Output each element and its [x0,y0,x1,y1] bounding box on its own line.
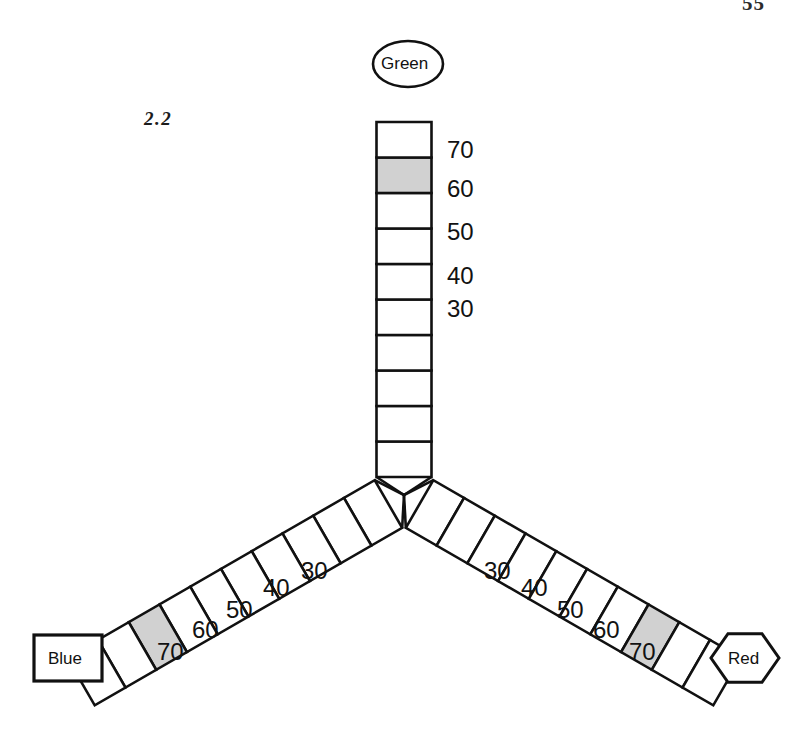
tick-green-60: 60 [447,177,474,201]
arm-green-cell-9[interactable] [377,122,432,158]
tick-green-50: 50 [447,220,474,244]
tick-green-40: 40 [447,264,474,288]
ternary-y-scale-svg [0,0,809,734]
arm-green-cell-4[interactable] [377,300,432,336]
junction-spoke [404,495,406,528]
arm-green-cell-6[interactable] [377,229,432,265]
node-label-green: Green [381,55,428,72]
tick-blue-60: 60 [192,618,219,642]
tick-green-30: 30 [447,297,474,321]
arm-green-cell-8-shaded[interactable] [377,158,432,194]
arm-green-cell-1[interactable] [377,406,432,442]
arm-green-cell-2[interactable] [377,371,432,407]
arm-green [377,122,432,477]
arm-green-cell-0[interactable] [377,442,432,478]
node-label-blue: Blue [48,650,82,667]
tick-blue-30: 30 [301,559,328,583]
tick-red-50: 50 [557,598,584,622]
tick-red-40: 40 [521,576,548,600]
tick-blue-70: 70 [157,640,184,664]
arm-green-cell-7[interactable] [377,193,432,229]
tick-red-60: 60 [593,618,620,642]
node-label-red: Red [728,650,759,667]
tick-green-70: 70 [447,138,474,162]
arm-green-cell-3[interactable] [377,335,432,371]
arm-blue [67,480,402,705]
tick-red-70: 70 [629,640,656,664]
tick-blue-50: 50 [226,598,253,622]
arm-red [406,480,741,705]
shapes-layer [34,41,779,705]
tick-red-30: 30 [484,559,511,583]
diagram-canvas: 55 2.2 70 60 50 40 30 30 40 50 60 70 30 … [0,0,809,734]
tick-blue-40: 40 [263,576,290,600]
arm-green-cell-5[interactable] [377,264,432,300]
